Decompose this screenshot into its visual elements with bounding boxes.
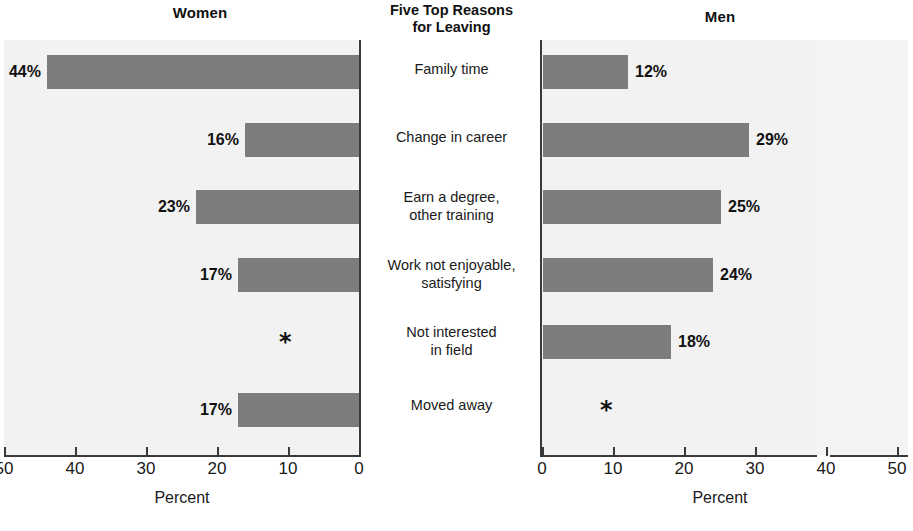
men-axis-tick-label: 10 (593, 459, 633, 479)
women-axis-tick (288, 447, 290, 456)
women-value-label: 17% (178, 393, 232, 427)
men-axis-tick (755, 447, 757, 456)
women-axis-tick-label: 20 (197, 459, 237, 479)
men-axis-tick (826, 447, 828, 456)
women-panel-title: Women (110, 4, 290, 21)
women-axis-tick-label: 10 (268, 459, 308, 479)
chart-title-line2: for Leaving (412, 19, 490, 35)
men-bar (543, 258, 713, 292)
category-label: Family time (361, 60, 542, 78)
women-axis-tick (75, 447, 77, 456)
men-value-label: 12% (635, 55, 667, 89)
center-label-column: Five Top Reasons for Leaving Family time… (361, 0, 542, 455)
women-axis-caption: Percent (82, 489, 282, 507)
category-label-line2: other training (409, 207, 494, 223)
women-axis-tick (4, 447, 6, 456)
category-label-line1: Moved away (411, 397, 492, 413)
men-value-label: 29% (756, 123, 788, 157)
category-label-line1: Work not enjoyable, (388, 257, 516, 273)
men-axis-tick-label: 0 (522, 459, 562, 479)
men-bar (543, 123, 749, 157)
category-label: Work not enjoyable,satisfying (361, 256, 542, 292)
men-axis-tick (684, 447, 686, 456)
men-axis-tick (897, 447, 899, 456)
men-value-label: 18% (678, 325, 710, 359)
women-bar (238, 258, 359, 292)
women-axis-tick (146, 447, 148, 456)
men-value-axis-left-segment (540, 455, 817, 457)
women-bar (47, 55, 359, 89)
men-axis-tick-label: 40 (806, 459, 846, 479)
women-category-axis (359, 40, 361, 455)
women-value-label: 23% (136, 190, 190, 224)
women-axis-tick-label: 0 (339, 459, 379, 479)
men-bar (543, 55, 628, 89)
men-suppressed-marker: * (600, 393, 613, 427)
men-axis-tick-label: 30 (735, 459, 775, 479)
women-value-axis (4, 455, 361, 457)
category-label-line1: Earn a degree, (404, 189, 500, 205)
category-label-line2: in field (431, 342, 473, 358)
women-axis-tick-label: 40 (55, 459, 95, 479)
category-label-line2: satisfying (421, 275, 481, 291)
category-label-line1: Change in career (396, 129, 507, 145)
category-label: Not interestedin field (361, 323, 542, 359)
men-panel-title: Men (640, 8, 800, 25)
women-value-label: 44% (0, 55, 41, 89)
men-bar (543, 190, 721, 224)
women-suppressed-marker: * (279, 325, 292, 359)
category-label: Earn a degree,other training (361, 188, 542, 224)
men-axis-caption: Percent (620, 489, 820, 507)
men-category-axis (540, 40, 542, 455)
men-value-label: 25% (728, 190, 760, 224)
chart-title-line1: Five Top Reasons (390, 2, 513, 18)
men-axis-tick (542, 447, 544, 456)
women-bar (238, 393, 359, 427)
men-bar (543, 325, 671, 359)
category-label: Moved away (361, 396, 542, 414)
men-plot-area-tail (815, 40, 908, 455)
women-axis-tick (217, 447, 219, 456)
men-axis-tick (613, 447, 615, 456)
women-value-label: 16% (185, 123, 239, 157)
category-label-line1: Family time (414, 61, 488, 77)
category-label: Change in career (361, 128, 542, 146)
men-value-label: 24% (720, 258, 752, 292)
chart-title: Five Top Reasons for Leaving (361, 2, 542, 36)
women-axis-tick (359, 447, 361, 456)
women-value-label: 17% (178, 258, 232, 292)
women-bar (196, 190, 359, 224)
women-bar (245, 123, 359, 157)
men-axis-tick-label: 50 (877, 459, 913, 479)
women-axis-tick-label: 50 (0, 459, 24, 479)
women-axis-tick-label: 30 (126, 459, 166, 479)
category-label-line1: Not interested (406, 324, 496, 340)
chart-canvas: Women Men 44%16%23%17%*17% 12%29%25%24%1… (0, 0, 913, 531)
men-axis-tick-label: 20 (664, 459, 704, 479)
